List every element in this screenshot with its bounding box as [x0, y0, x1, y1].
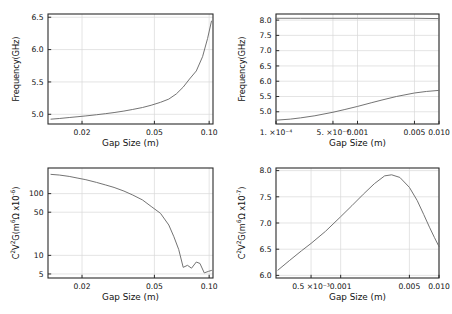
x-axis-label-top-left: Gap Size (m) [48, 138, 213, 148]
plot-area-bottom-right: 6.06.57.07.58.00.5 ×10⁻³0.0010.0050.010 [226, 157, 452, 314]
x-axis-label-bottom-left: Gap Size (m) [48, 292, 213, 302]
x-tick-label: 1. ×10⁻⁴ [260, 128, 293, 137]
y-tick-label: 5.0 [259, 107, 271, 116]
y-tick-label: 5.5 [31, 78, 43, 87]
y-tick-label: 8.0 [259, 16, 271, 25]
x-axis-label-bottom-right: Gap Size (m) [276, 292, 439, 302]
y-tick-label: 8.0 [259, 166, 271, 175]
x-tick-label: 0.001 [330, 282, 352, 291]
y-tick-label: 6.5 [259, 62, 271, 71]
y-tick-label: 7.0 [259, 46, 271, 55]
x-tick-label: 0.005 [399, 282, 421, 291]
y-tick-label: 7.0 [259, 219, 271, 228]
x-tick-label: 0.10 [201, 282, 218, 291]
x-tick-label: 0.001 [347, 128, 369, 137]
x-tick-label: 0.05 [146, 128, 163, 137]
x-tick-label: 0.02 [74, 282, 91, 291]
y-axis-label-bottom-left: C2V2G(m6Ω x10-6) [11, 187, 21, 260]
panel-bottom-right: 6.06.57.07.58.00.5 ×10⁻³0.0010.0050.010 … [226, 157, 452, 314]
x-tick-label: 5. ×10⁻⁴ [317, 128, 350, 137]
x-tick-label: 0.02 [74, 128, 91, 137]
plot-area-top-left: 5.05.56.06.50.020.050.10 [0, 0, 226, 157]
x-tick-label: 0.10 [201, 128, 218, 137]
y-tick-label: 7.5 [259, 193, 271, 202]
y-tick-label: 7.5 [259, 31, 271, 40]
x-axis-label-top-right: Gap Size (m) [276, 138, 439, 148]
plot-area-top-right: 5.05.56.06.57.07.58.01. ×10⁻⁴5. ×10⁻⁴0.0… [226, 0, 452, 157]
x-tick-label: 0.010 [428, 128, 450, 137]
y-tick-label: 6.5 [259, 245, 271, 254]
panel-bottom-left: 510501000.020.050.10 C2V2G(m6Ω x10-6) Ga… [0, 157, 226, 314]
x-tick-label: 0.05 [146, 282, 163, 291]
y-axis-label-top-right: Frequency(GHz) [237, 37, 247, 102]
y-tick-label: 6.0 [259, 77, 271, 86]
x-tick-label: 0.5 ×10⁻³ [292, 282, 330, 291]
y-tick-label: 50 [34, 208, 44, 217]
y-axis-label-bottom-right: C2V2G(m6Ω x10-7) [237, 187, 247, 260]
figure-four-panel: 5.05.56.06.50.020.050.10 Frequency(GHz) … [0, 0, 452, 314]
plot-area-bottom-left: 510501000.020.050.10 [0, 157, 226, 314]
y-tick-label: 100 [29, 189, 44, 198]
panel-top-right: 5.05.56.06.57.07.58.01. ×10⁻⁴5. ×10⁻⁴0.0… [226, 0, 452, 157]
y-tick-label: 6.0 [31, 45, 43, 54]
y-axis-label-top-left: Frequency(GHz) [11, 37, 21, 102]
y-tick-label: 5.0 [31, 110, 43, 119]
x-tick-label: 0.010 [428, 282, 450, 291]
y-tick-label: 5.5 [259, 92, 271, 101]
panel-top-left: 5.05.56.06.50.020.050.10 Frequency(GHz) … [0, 0, 226, 157]
y-tick-label: 6.0 [259, 271, 271, 280]
y-tick-label: 5 [39, 270, 44, 279]
y-tick-label: 6.5 [31, 13, 43, 22]
x-tick-label: 0.005 [404, 128, 426, 137]
y-tick-label: 10 [34, 251, 44, 260]
